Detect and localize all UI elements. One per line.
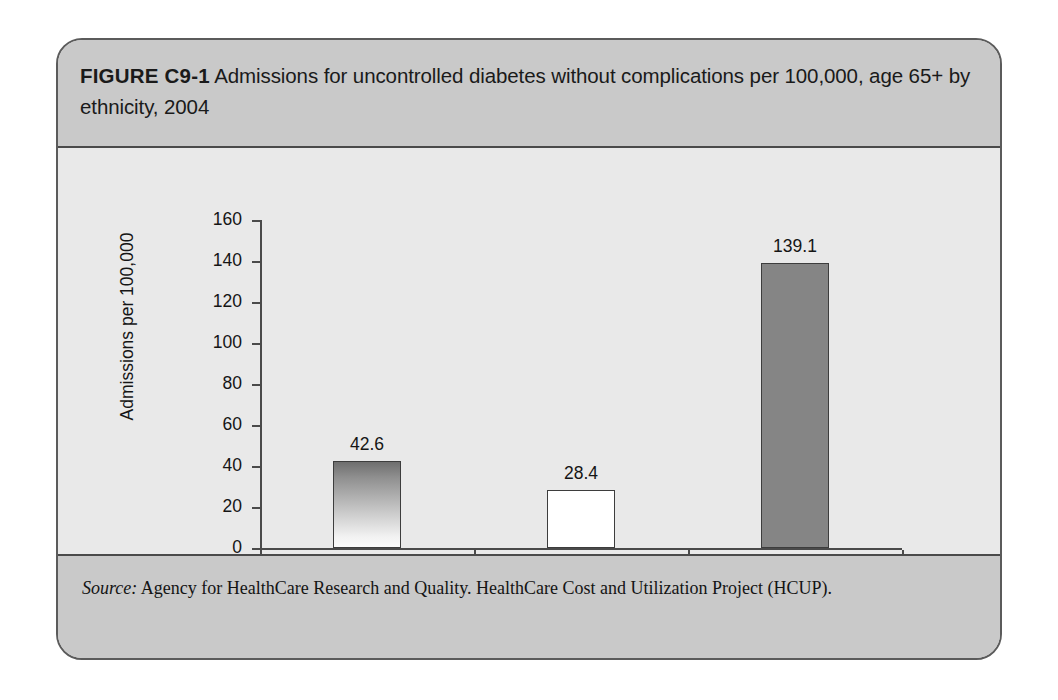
source-lead-label: Source: xyxy=(82,578,137,598)
figure-caption-text: Admissions for uncontrolled diabetes wit… xyxy=(80,64,970,118)
y-axis-tick-label: 60 xyxy=(190,416,242,434)
plot-area: Admissions per 100,000 02040608010012014… xyxy=(58,148,1000,554)
y-axis-title: Admissions per 100,000 xyxy=(117,202,138,452)
y-axis-tick-label: 100 xyxy=(190,334,242,352)
source-body-text: Agency for HealthCare Research and Quali… xyxy=(137,578,832,598)
figure-caption-band: FIGURE C9-1 Admissions for uncontrolled … xyxy=(58,40,1000,148)
bar-value-label: 139.1 xyxy=(735,236,855,257)
figure-number-label: FIGURE C9-1 xyxy=(80,64,210,87)
bar-value-label: 42.6 xyxy=(307,434,427,455)
y-axis-line xyxy=(260,220,262,548)
y-axis-tick-label: 20 xyxy=(190,498,242,516)
chart-panel: Admissions per 100,000 02040608010012014… xyxy=(58,148,1000,554)
y-axis-tick-mark xyxy=(252,425,260,427)
y-axis-tick-label: 140 xyxy=(190,252,242,270)
bar-white xyxy=(547,490,615,548)
bar-total xyxy=(333,461,401,548)
y-axis-tick-label: 80 xyxy=(190,375,242,393)
x-axis-line xyxy=(260,548,902,550)
y-axis-tick-mark xyxy=(252,261,260,263)
figure-source: Source: Agency for HealthCare Research a… xyxy=(82,578,976,599)
y-axis-tick-mark xyxy=(252,384,260,386)
figure-container: FIGURE C9-1 Admissions for uncontrolled … xyxy=(56,38,1002,660)
y-axis-tick-mark xyxy=(252,548,260,550)
y-axis-tick-mark xyxy=(252,302,260,304)
y-axis-tick-mark xyxy=(252,220,260,222)
y-axis-tick-mark xyxy=(252,466,260,468)
y-axis-tick-mark xyxy=(252,343,260,345)
bar-hispanic xyxy=(761,263,829,548)
y-axis-tick-label: 40 xyxy=(190,457,242,475)
figure-caption: FIGURE C9-1 Admissions for uncontrolled … xyxy=(80,60,972,122)
y-axis-tick-mark xyxy=(252,507,260,509)
bar-value-label: 28.4 xyxy=(521,463,641,484)
y-axis-tick-label: 160 xyxy=(190,211,242,229)
y-axis-tick-label: 120 xyxy=(190,293,242,311)
figure-source-band: Source: Agency for HealthCare Research a… xyxy=(58,554,1000,660)
